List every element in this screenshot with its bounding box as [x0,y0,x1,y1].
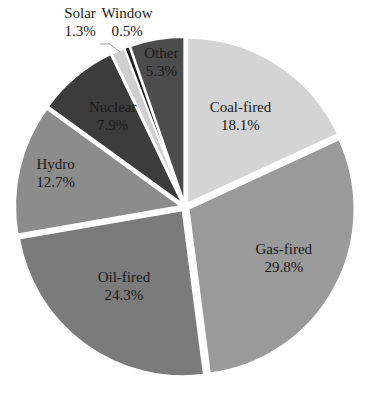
slice-label: Solar1.3% [64,5,96,39]
pie-chart: Coal-fired18.1%Gas-fired29.8%Oil-fired24… [0,0,367,394]
slice-label: Window0.5% [101,5,152,39]
pie-slices [15,37,354,376]
